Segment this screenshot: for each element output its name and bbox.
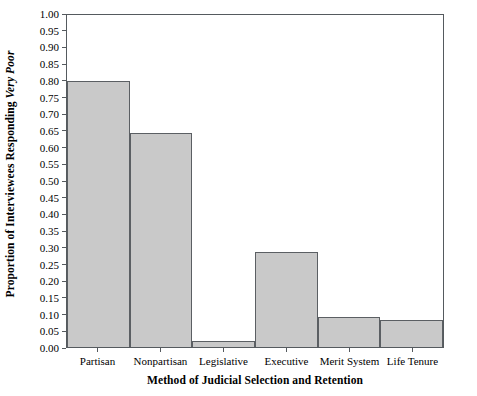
bar-slot <box>255 15 318 347</box>
bar-slot <box>318 15 381 347</box>
bar <box>67 81 130 347</box>
bar-slot <box>192 15 255 347</box>
y-tick-label: 0.35 <box>40 223 59 239</box>
bar <box>255 252 318 347</box>
bar <box>380 320 443 347</box>
y-tick-label: 0.05 <box>40 323 59 339</box>
x-tick-label: Partisan <box>66 355 129 367</box>
y-tick-label: 0.30 <box>40 240 59 256</box>
y-tick-label: 0.25 <box>40 257 59 273</box>
bar-series <box>67 15 443 347</box>
y-tick-label: 0.85 <box>40 56 59 72</box>
y-tick-label: 0.60 <box>40 140 59 156</box>
x-tick-mark <box>412 348 413 352</box>
x-tick-mark <box>286 348 287 352</box>
x-tick-label: Executive <box>255 355 318 367</box>
y-tick-label: 0.90 <box>40 39 59 55</box>
y-tick-label: 0.10 <box>40 307 59 323</box>
bar <box>130 133 193 347</box>
y-tick-label: 0.20 <box>40 273 59 289</box>
x-tick-label: Nonpartisan <box>129 355 192 367</box>
y-tick-label: 0.65 <box>40 123 59 139</box>
x-tick-label: Life Tenure <box>381 355 444 367</box>
y-tick-label: 0.95 <box>40 23 59 39</box>
y-tick-label: 0.40 <box>40 206 59 222</box>
plot-area <box>66 14 444 348</box>
y-tick-label: 0.55 <box>40 156 59 172</box>
y-tick-label: 0.50 <box>40 173 59 189</box>
y-tick-label: 0.45 <box>40 190 59 206</box>
x-axis-title: Method of Judicial Selection and Retenti… <box>66 374 444 386</box>
x-tick-mark <box>349 348 350 352</box>
x-tick-mark <box>160 348 161 352</box>
y-tick-label: 0.80 <box>40 73 59 89</box>
x-tick-mark <box>97 348 98 352</box>
bar-slot <box>380 15 443 347</box>
y-axis-ticks: 0.000.050.100.150.200.250.300.350.400.45… <box>0 14 66 348</box>
y-tick-label: 0.00 <box>40 340 59 356</box>
bar-slot <box>67 15 130 347</box>
bar-slot <box>130 15 193 347</box>
y-tick-label: 1.00 <box>40 6 59 22</box>
bar <box>192 341 255 347</box>
y-tick-label: 0.70 <box>40 106 59 122</box>
x-tick-label: Merit System <box>318 355 381 367</box>
x-tick-mark <box>223 348 224 352</box>
bar <box>318 317 381 347</box>
bar-chart-figure: Proportion of Interviewees Responding Ve… <box>0 0 477 396</box>
y-tick-label: 0.75 <box>40 90 59 106</box>
x-tick-label: Legislative <box>192 355 255 367</box>
y-tick-label: 0.15 <box>40 290 59 306</box>
